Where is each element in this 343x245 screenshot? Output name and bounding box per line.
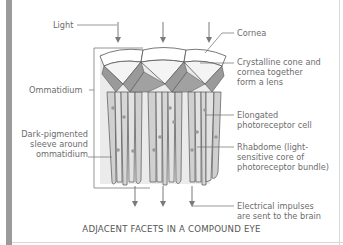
- label-rhabdome-line-2: sensitive core of: [237, 152, 329, 162]
- label-impulses-line-1: Electrical impulses: [237, 201, 321, 211]
- label-impulses: Electrical impulses are sent to the brai…: [237, 201, 321, 221]
- label-impulses-line-2: are sent to the brain: [237, 211, 321, 221]
- diagram-page: Light Ommatidium Dark-pigmented sleeve a…: [0, 0, 343, 245]
- label-sleeve: Dark-pigmented sleeve around ommatidium: [12, 129, 88, 159]
- label-photoreceptor: Elongated photoreceptor cell: [237, 110, 312, 130]
- label-crystalline-line-3: form a lens: [237, 77, 321, 87]
- label-photoreceptor-line-1: Elongated: [237, 110, 312, 120]
- label-rhabdome: Rhabdome (light- sensitive core of photo…: [237, 142, 329, 172]
- label-crystalline-line-1: Crystalline cone and: [237, 57, 321, 67]
- label-rhabdome-line-1: Rhabdome (light-: [237, 142, 329, 152]
- light-arrows: [118, 22, 209, 40]
- label-sleeve-line-2: sleeve around: [12, 139, 88, 149]
- label-crystalline-cone: Crystalline cone and cornea together for…: [237, 57, 321, 87]
- diagram-title: ADJACENT FACETS IN A COMPOUND EYE: [0, 224, 343, 234]
- label-ommatidium: Ommatidium: [29, 85, 83, 95]
- label-cornea: Cornea: [237, 28, 266, 38]
- label-sleeve-line-3: ommatidium: [12, 149, 88, 159]
- facets: [100, 48, 226, 186]
- label-sleeve-line-1: Dark-pigmented: [12, 129, 88, 139]
- impulse-arrows: [135, 186, 192, 204]
- label-crystalline-line-2: cornea together: [237, 67, 321, 77]
- label-light: Light: [53, 20, 73, 30]
- label-rhabdome-line-3: photoreceptor bundle): [237, 162, 329, 172]
- label-photoreceptor-line-2: photoreceptor cell: [237, 120, 312, 130]
